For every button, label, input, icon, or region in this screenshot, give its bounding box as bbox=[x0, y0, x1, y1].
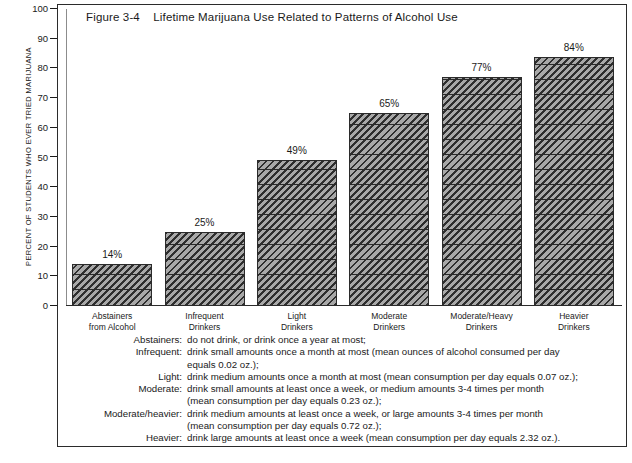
bar-hatch-rule bbox=[443, 289, 521, 290]
y-axis-tick-label: 10 bbox=[37, 271, 48, 280]
y-axis-tick-label: 60 bbox=[37, 123, 48, 132]
bar-hatch-rule bbox=[443, 214, 521, 215]
bar-hatch-rule bbox=[443, 199, 521, 200]
footnote-term: Moderate: bbox=[60, 383, 187, 395]
bar-hatch-rule bbox=[443, 274, 521, 275]
y-axis-tick: 100 bbox=[3, 4, 57, 13]
footnote-term: Abstainers: bbox=[60, 334, 187, 346]
footnote-row: Heavier:drink large amounts at least onc… bbox=[60, 432, 622, 444]
y-axis-tick: 0 bbox=[3, 301, 57, 310]
bar-hatch-rule bbox=[73, 274, 151, 275]
y-axis-tick-mark bbox=[50, 186, 57, 187]
bar bbox=[257, 160, 337, 306]
y-axis-ticks: 0102030405060708090100 bbox=[0, 0, 57, 463]
bar bbox=[442, 77, 522, 306]
x-axis-category-label: Infrequent Drinkers bbox=[158, 311, 250, 332]
bar-hatch-rule bbox=[535, 109, 613, 110]
bar-hatch-rule bbox=[258, 259, 336, 260]
bar-hatch-rule bbox=[350, 289, 428, 290]
y-axis-tick-mark bbox=[50, 305, 57, 306]
bar-hatch-rule bbox=[535, 199, 613, 200]
bar-hatch-rule bbox=[350, 214, 428, 215]
footnote-description: drink small amounts once a month at most… bbox=[187, 346, 622, 358]
bar-hatch-rule bbox=[443, 169, 521, 170]
y-axis-tick-label: 70 bbox=[37, 93, 48, 102]
y-axis-tick-label: 50 bbox=[37, 153, 48, 162]
bar-hatch-rule bbox=[166, 244, 244, 245]
bar-hatch-rule bbox=[258, 289, 336, 290]
x-axis-category-label: Heavier Drinkers bbox=[528, 311, 620, 332]
y-axis-tick-mark bbox=[50, 127, 57, 128]
y-axis-tick-mark bbox=[50, 8, 57, 9]
bar-hatch-rule bbox=[535, 154, 613, 155]
bar-hatch-rule bbox=[166, 259, 244, 260]
y-axis-tick-label: 40 bbox=[37, 182, 48, 191]
y-axis-tick: 30 bbox=[3, 212, 57, 221]
y-axis-tick-mark bbox=[50, 275, 57, 276]
bar-hatch-rule bbox=[258, 199, 336, 200]
bar-hatch-rule bbox=[443, 154, 521, 155]
footnote-row: Abstainers:do not drink, or drink once a… bbox=[60, 334, 622, 346]
bar-hatch-rule bbox=[443, 259, 521, 260]
footnote-continuation: equals 0.02 oz.); bbox=[187, 359, 622, 371]
bar-hatch-rule bbox=[535, 169, 613, 170]
y-axis-tick-mark bbox=[50, 156, 57, 157]
bar-hatch-rule bbox=[443, 244, 521, 245]
footnote-description: do not drink, or drink once a year at mo… bbox=[187, 334, 622, 346]
bar-hatch-rule bbox=[443, 184, 521, 185]
bar-value-label: 49% bbox=[237, 145, 357, 156]
bar-value-label: 77% bbox=[422, 62, 542, 73]
bar-hatch-rule bbox=[350, 259, 428, 260]
footnote-term: Heavier: bbox=[60, 432, 187, 444]
bar-value-label: 65% bbox=[329, 98, 449, 109]
footnote-term: Moderate/heavier: bbox=[60, 408, 187, 420]
y-axis-tick: 90 bbox=[3, 34, 57, 43]
bar-hatch-rule bbox=[350, 199, 428, 200]
figure-3-4: Figure 3-4 Lifetime Marijuana Use Relate… bbox=[0, 0, 632, 463]
bar-hatch-rule bbox=[535, 79, 613, 80]
bar-hatch-rule bbox=[443, 109, 521, 110]
bar-hatch-rule bbox=[443, 94, 521, 95]
bar-hatch-rule bbox=[258, 169, 336, 170]
bar-hatch-rule bbox=[535, 139, 613, 140]
bar-hatch-rule bbox=[350, 139, 428, 140]
bar-hatch-rule bbox=[535, 229, 613, 230]
y-axis-tick-label: 20 bbox=[37, 242, 48, 251]
bar-hatch-rule bbox=[443, 139, 521, 140]
bar-hatch-rule bbox=[258, 214, 336, 215]
bar-value-label: 84% bbox=[514, 42, 632, 53]
y-axis-tick: 80 bbox=[3, 63, 57, 72]
bar-hatch-rule bbox=[443, 124, 521, 125]
x-axis-category-label: Moderate Drinkers bbox=[343, 311, 435, 332]
bar-hatch-rule bbox=[258, 229, 336, 230]
y-axis-tick-mark bbox=[50, 97, 57, 98]
y-axis-tick: 70 bbox=[3, 93, 57, 102]
y-axis-tick: 50 bbox=[3, 153, 57, 162]
bar-hatch-rule bbox=[535, 64, 613, 65]
bar-hatch-rule bbox=[166, 274, 244, 275]
y-axis-tick-label: 80 bbox=[37, 63, 48, 72]
bar-hatch-rule bbox=[443, 79, 521, 80]
footnote-row: Light:drink medium amounts once a month … bbox=[60, 371, 622, 383]
bar-hatch-rule bbox=[535, 184, 613, 185]
bar-value-label: 14% bbox=[52, 249, 172, 260]
y-axis-tick-label: 30 bbox=[37, 212, 48, 221]
footnote-description: drink medium amounts once a month at mos… bbox=[187, 371, 622, 383]
bar-hatch-rule bbox=[535, 274, 613, 275]
bar-hatch-rule bbox=[258, 274, 336, 275]
footnote-row: Moderate:drink small amounts at least on… bbox=[60, 383, 622, 395]
bar-hatch-rule bbox=[350, 274, 428, 275]
bar-hatch-rule bbox=[350, 229, 428, 230]
y-axis-tick-label: 90 bbox=[37, 34, 48, 43]
y-axis-tick: 10 bbox=[3, 271, 57, 280]
y-axis-tick-mark bbox=[50, 246, 57, 247]
bar-hatch-rule bbox=[350, 169, 428, 170]
bar-hatch-rule bbox=[443, 229, 521, 230]
y-axis-tick: 20 bbox=[3, 242, 57, 251]
footnote-description: drink medium amounts at least once a wee… bbox=[187, 408, 622, 420]
footnote-definitions: Abstainers:do not drink, or drink once a… bbox=[60, 334, 622, 445]
bar-value-label: 25% bbox=[145, 217, 265, 228]
bar-hatch-rule bbox=[535, 214, 613, 215]
bar-hatch-rule bbox=[350, 154, 428, 155]
bar bbox=[534, 57, 614, 306]
